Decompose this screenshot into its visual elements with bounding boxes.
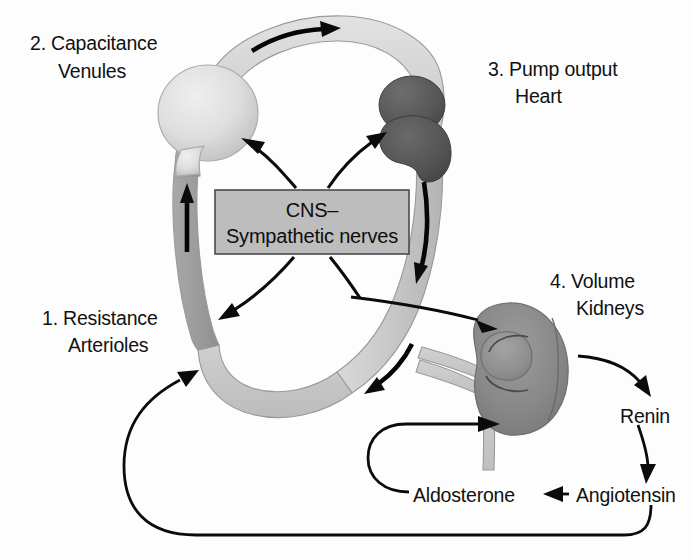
- cns-box-label-line2: Sympathetic nerves: [226, 225, 398, 247]
- angiotensin-to-arterioles-arrow: [124, 380, 651, 535]
- cns-sympathetic-box-group[interactable]: CNS– Sympathetic nerves: [215, 190, 409, 254]
- aldosterone-label: Aldosterone: [413, 484, 515, 506]
- kidney-to-renin-arrow: [578, 356, 640, 382]
- cns-to-venule-arrow: [256, 148, 296, 188]
- capacitance-venules-label-line2: Venules: [58, 60, 126, 82]
- cns-box-label-line1: CNS–: [286, 199, 340, 221]
- kidney-organ: [474, 303, 569, 435]
- angiotensin-to-aldosterone-arrowhead: [543, 486, 563, 502]
- diagram-page: CNS– Sympathetic nerves: [0, 0, 693, 559]
- volume-kidneys-label-line1: 4. Volume: [550, 270, 635, 292]
- capacitance-venule-balloon: [158, 65, 258, 161]
- angiotensin-label: Angiotensin: [576, 484, 676, 506]
- kidney-upper-lobe: [481, 332, 532, 380]
- renin-label: Renin: [620, 405, 670, 427]
- cns-to-kidney-stub-arrow: [330, 257, 360, 298]
- pump-output-heart-label-line1: 3. Pump output: [488, 58, 618, 80]
- resistance-arterioles-label-line1: 1. Resistance: [42, 307, 158, 329]
- cns-to-arterioles-arrow: [234, 257, 294, 310]
- resistance-arterioles-label-line2: Arterioles: [68, 334, 149, 356]
- capacitance-venules-label-line1: 2. Capacitance: [30, 32, 157, 54]
- cns-to-heart-arrow: [328, 142, 372, 188]
- resistance-arteriole-vessel: [173, 158, 219, 350]
- cns-to-arterioles-arrowhead: [218, 303, 240, 320]
- renin-to-angiotensin-arrow: [638, 425, 648, 468]
- venule-bottom-vessel: [198, 345, 352, 418]
- angiotensin-to-arterioles-arrowhead: [177, 370, 199, 387]
- blood-pressure-regulation-diagram: CNS– Sympathetic nerves: [0, 0, 693, 559]
- pump-output-heart-label-line2: Heart: [515, 85, 562, 107]
- diagram-text-labels: 2. Capacitance Venules 3. Pump output He…: [30, 32, 676, 506]
- heart-lower-chamber: [380, 116, 451, 182]
- volume-kidneys-label-line2: Kidneys: [576, 297, 644, 319]
- heart-organ: [379, 76, 451, 182]
- aldosterone-to-kidney-arrow: [368, 424, 480, 492]
- renin-to-angiotensin-arrowhead: [640, 464, 656, 484]
